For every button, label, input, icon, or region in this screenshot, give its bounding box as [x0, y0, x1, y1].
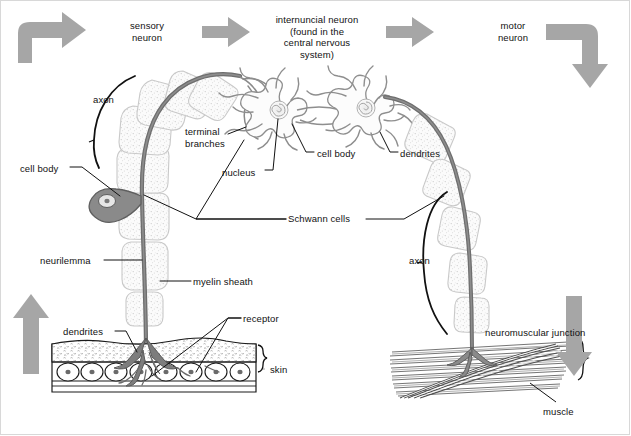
motor-neuron-heading: motor neuron	[478, 20, 548, 43]
internuncial-neuron-heading: internuncial neuron (found in the centra…	[252, 14, 382, 60]
arrow-stimulus-up	[13, 294, 49, 374]
cell-body-internuncial-label: cell body	[317, 148, 355, 160]
myelin-sheath-label: myelin sheath	[193, 276, 253, 288]
neurilemma-label: neurilemma	[40, 255, 91, 267]
dendrites-internuncial-label: dendrites	[400, 148, 440, 160]
arrow-skin-to-sensory	[18, 12, 86, 63]
schwann-cells-label: Schwann cells	[288, 213, 350, 225]
terminal-branches-label: terminal branches	[185, 126, 225, 149]
neuromuscular-junction-label: neuromuscular junction	[485, 327, 585, 339]
muscle-label: muscle	[543, 406, 574, 418]
axon-left-label: axon	[93, 94, 114, 106]
axon-right-label: axon	[409, 255, 430, 267]
dendrites-skin-label: dendrites	[63, 326, 103, 338]
sensory-neuron-heading: sensory neuron	[112, 20, 182, 43]
arrow-internuncial-to-motor	[386, 17, 434, 47]
arrow-sensory-to-internuncial	[202, 17, 250, 47]
arrow-motor-down	[546, 24, 608, 88]
receptor-label: receptor	[243, 313, 279, 325]
cell-body-left-label: cell body	[20, 163, 58, 175]
reflex-arc-diagram: sensory neuron internuncial neuron (foun…	[0, 0, 631, 436]
nucleus-label: nucleus	[222, 167, 255, 179]
skin-label: skin	[270, 364, 287, 376]
